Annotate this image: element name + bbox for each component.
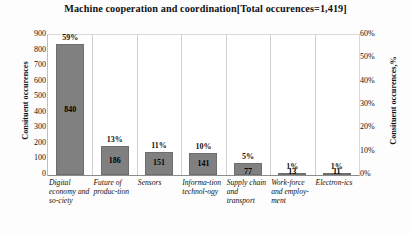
bar-value-label: 141 xyxy=(197,160,209,168)
y-tick-left: 800 xyxy=(20,46,46,54)
y-tick-left: 400 xyxy=(20,108,46,116)
bar-chart: Machine cooperation and coordination[Tot… xyxy=(0,0,411,236)
bar-column[interactable]: 10%141 xyxy=(181,35,225,175)
y-tick-left: 200 xyxy=(20,139,46,147)
y-tick-left: 700 xyxy=(20,61,46,69)
y-tick-left: 100 xyxy=(20,154,46,162)
x-category-label: Supply chain and transport xyxy=(227,179,267,206)
y-tick-right: 50% xyxy=(360,53,390,61)
bar-percent-label: 59% xyxy=(62,34,78,42)
chart-title: Machine cooperation and coordination[Tot… xyxy=(0,3,411,14)
bar-column[interactable]: 5%77 xyxy=(226,35,270,175)
y-tick-left: 600 xyxy=(20,77,46,85)
plot-area: 59%84013%18611%15110%1415%771%131%11 xyxy=(47,34,360,176)
y-tick-left: 500 xyxy=(20,92,46,100)
x-category-label: Informa-​tion technol-​ogy xyxy=(182,179,222,197)
y-tick-right: 30% xyxy=(360,100,390,108)
y-tick-right: 10% xyxy=(360,147,390,155)
bar-percent-label: 11% xyxy=(151,142,167,150)
bar-value-label: 840 xyxy=(64,106,76,114)
bar-percent-label: 13% xyxy=(107,136,123,144)
bar-column[interactable]: 11%151 xyxy=(137,35,181,175)
y-axis-right-ticks: 60%50%40%30%20%10%0% xyxy=(360,0,392,236)
bar-value-label: 13 xyxy=(288,168,296,176)
bar-percent-label: 10% xyxy=(195,143,211,151)
y-tick-left: 300 xyxy=(20,123,46,131)
bar-column[interactable]: 1%13 xyxy=(270,35,314,175)
x-category-label: Digital economy and so-​ciety xyxy=(49,179,89,206)
bar-value-label: 186 xyxy=(109,157,121,165)
y-tick-right: 0% xyxy=(360,170,390,178)
x-category-label: Work-​force and employ-​ment xyxy=(271,179,311,206)
bar-column[interactable]: 59%840 xyxy=(48,35,92,175)
bar-value-label: 77 xyxy=(244,168,252,176)
y-axis-left-ticks: 9008007006005004003002001000 xyxy=(18,0,46,236)
x-category-label: Electron-​ics xyxy=(316,179,356,188)
y-tick-left: 0 xyxy=(20,170,46,178)
bar-column[interactable]: 13%186 xyxy=(92,35,136,175)
x-axis-category-labels: Digital economy and so-​cietyFuture of p… xyxy=(47,179,360,236)
x-category-label: Future of produc-​tion xyxy=(93,179,133,197)
bar-column[interactable]: 1%11 xyxy=(315,35,359,175)
bar-value-label: 11 xyxy=(333,168,341,176)
y-tick-left: 900 xyxy=(20,30,46,38)
bar-percent-label: 5% xyxy=(242,153,254,161)
bar-value-label: 151 xyxy=(153,159,165,167)
y-tick-right: 20% xyxy=(360,123,390,131)
y-tick-right: 60% xyxy=(360,30,390,38)
x-category-label: Sensors xyxy=(138,179,178,188)
y-tick-right: 40% xyxy=(360,77,390,85)
